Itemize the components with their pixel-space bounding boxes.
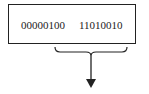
arrow-head-icon <box>86 79 96 88</box>
brace-arrow <box>0 0 149 94</box>
brace-icon <box>55 47 127 56</box>
